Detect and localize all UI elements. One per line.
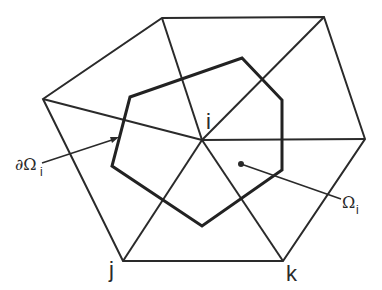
control-volume-boundary	[112, 58, 282, 226]
boundary-leader	[42, 137, 119, 163]
region-subscript: i	[356, 203, 359, 217]
region-label: Ω i	[342, 193, 359, 217]
region-leader	[238, 161, 341, 199]
boundary-subscript: i	[40, 165, 43, 179]
region-symbol: Ω	[342, 193, 355, 212]
node-label-i: i	[206, 109, 211, 134]
dual-mesh-diagram: i j k ∂Ω i Ω i	[0, 0, 382, 290]
node-label-k: k	[286, 261, 298, 286]
boundary-label: ∂Ω i	[15, 155, 43, 179]
boundary-symbol: ∂Ω	[15, 155, 37, 174]
node-label-j: j	[108, 257, 114, 282]
